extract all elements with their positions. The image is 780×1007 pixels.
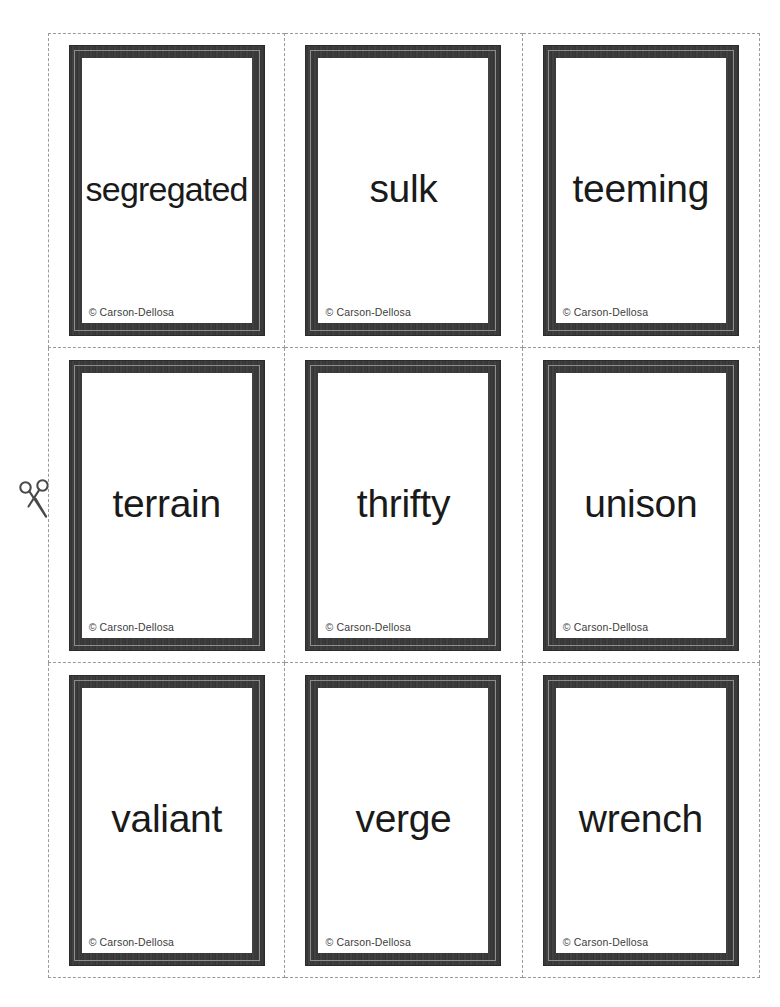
flashcard[interactable]: teeming © Carson-Dellosa [543, 45, 739, 336]
card-frame-bevel: teeming © Carson-Dellosa [548, 50, 734, 331]
cut-cell: terrain © Carson-Dellosa [48, 348, 285, 663]
card-word: sulk [369, 169, 437, 208]
card-word: terrain [112, 484, 220, 523]
card-face: teeming © Carson-Dellosa [556, 58, 726, 323]
flashcard[interactable]: verge © Carson-Dellosa [305, 675, 501, 966]
flashcard-grid: segregated © Carson-Dellosa sulk © Carso… [48, 33, 760, 978]
card-copyright: © Carson-Dellosa [563, 621, 648, 633]
card-copyright: © Carson-Dellosa [325, 936, 410, 948]
card-face: sulk © Carson-Dellosa [318, 58, 488, 323]
card-copyright: © Carson-Dellosa [89, 306, 174, 318]
card-copyright: © Carson-Dellosa [563, 936, 648, 948]
flashcard[interactable]: thrifty © Carson-Dellosa [305, 360, 501, 651]
card-word: segregated [86, 172, 248, 206]
card-face: wrench © Carson-Dellosa [556, 688, 726, 953]
card-copyright: © Carson-Dellosa [325, 306, 410, 318]
card-frame-bevel: unison © Carson-Dellosa [548, 365, 734, 646]
cut-cell: segregated © Carson-Dellosa [48, 33, 285, 348]
card-frame-bevel: thrifty © Carson-Dellosa [310, 365, 496, 646]
card-frame-bevel: wrench © Carson-Dellosa [548, 680, 734, 961]
flashcard[interactable]: wrench © Carson-Dellosa [543, 675, 739, 966]
card-word: valiant [111, 799, 222, 838]
card-face: unison © Carson-Dellosa [556, 373, 726, 638]
card-frame-bevel: verge © Carson-Dellosa [310, 680, 496, 961]
cut-cell: verge © Carson-Dellosa [285, 663, 522, 978]
card-word: thrifty [357, 484, 450, 523]
card-word: teeming [572, 169, 709, 208]
card-frame-bevel: valiant © Carson-Dellosa [74, 680, 260, 961]
card-copyright: © Carson-Dellosa [89, 936, 174, 948]
card-copyright: © Carson-Dellosa [89, 621, 174, 633]
card-face: terrain © Carson-Dellosa [82, 373, 252, 638]
card-face: thrifty © Carson-Dellosa [318, 373, 488, 638]
card-face: valiant © Carson-Dellosa [82, 688, 252, 953]
flashcard[interactable]: unison © Carson-Dellosa [543, 360, 739, 651]
cut-cell: unison © Carson-Dellosa [523, 348, 760, 663]
card-face: verge © Carson-Dellosa [318, 688, 488, 953]
card-copyright: © Carson-Dellosa [563, 306, 648, 318]
card-frame-bevel: terrain © Carson-Dellosa [74, 365, 260, 646]
card-copyright: © Carson-Dellosa [325, 621, 410, 633]
cut-cell: thrifty © Carson-Dellosa [285, 348, 522, 663]
card-face: segregated © Carson-Dellosa [82, 58, 252, 323]
cut-cell: wrench © Carson-Dellosa [523, 663, 760, 978]
flashcard-sheet: segregated © Carson-Dellosa sulk © Carso… [0, 0, 780, 1007]
flashcard[interactable]: segregated © Carson-Dellosa [69, 45, 265, 336]
flashcard[interactable]: valiant © Carson-Dellosa [69, 675, 265, 966]
card-frame-bevel: segregated © Carson-Dellosa [74, 50, 260, 331]
cut-cell: teeming © Carson-Dellosa [523, 33, 760, 348]
card-frame-bevel: sulk © Carson-Dellosa [310, 50, 496, 331]
flashcard[interactable]: sulk © Carson-Dellosa [305, 45, 501, 336]
flashcard[interactable]: terrain © Carson-Dellosa [69, 360, 265, 651]
cut-cell: valiant © Carson-Dellosa [48, 663, 285, 978]
card-word: wrench [579, 799, 703, 838]
cut-cell: sulk © Carson-Dellosa [285, 33, 522, 348]
card-word: verge [355, 799, 451, 838]
card-word: unison [584, 484, 697, 523]
